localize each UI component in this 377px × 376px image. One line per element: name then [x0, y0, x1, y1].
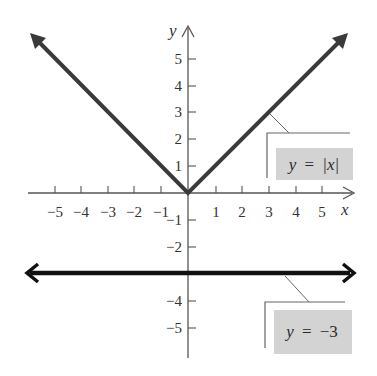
- x-axis-label: x: [340, 200, 349, 219]
- y-tick-label: 4: [175, 78, 183, 94]
- constant-label: y = −3: [284, 322, 338, 341]
- y-tick-label: 1: [175, 158, 183, 174]
- constant-graph: [27, 264, 354, 282]
- constant-callout: y = −3: [265, 276, 352, 354]
- graph: −5−4−3−2−112345 x 54321−1−2−4−5 y y = |x…: [0, 0, 377, 376]
- x-tick-label: −3: [100, 204, 116, 220]
- x-tick-label: 5: [318, 204, 326, 220]
- y-tick-label: −1: [166, 212, 182, 228]
- y-tick-label: 5: [175, 51, 183, 67]
- x-tick-label: −2: [126, 204, 142, 220]
- x-tick-label: 3: [265, 204, 273, 220]
- y-tick-label: −5: [166, 320, 182, 336]
- y-tick-label: −2: [166, 239, 182, 255]
- y-tick-label: 2: [175, 131, 183, 147]
- x-tick-label: 1: [212, 204, 220, 220]
- abs-value-label: y = |x|: [287, 155, 340, 174]
- y-tick-label: −4: [166, 293, 182, 309]
- x-tick-label: 2: [238, 204, 246, 220]
- x-tick-label: 4: [292, 204, 300, 220]
- y-tick-label: 3: [175, 104, 183, 120]
- y-axis-label: y: [167, 21, 177, 40]
- abs-value-callout: y = |x|: [267, 114, 353, 180]
- x-tick-label: −5: [47, 204, 63, 220]
- x-tick-label: −4: [73, 204, 89, 220]
